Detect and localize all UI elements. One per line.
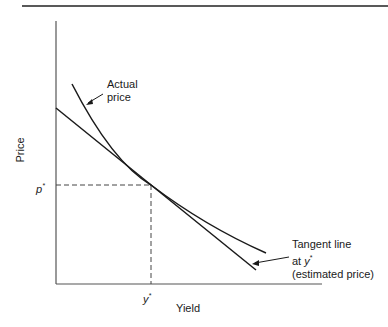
tangent-arrowhead [252,260,259,266]
actual-price-annotation: Actual price [107,78,138,104]
y-axis-label: Price [14,137,26,162]
y-star-label: y* [143,289,151,306]
actual-price-arrowhead [86,99,93,105]
p-star-label: p* [36,179,45,196]
tangent-arrow [255,257,289,263]
tangent-line [56,108,256,270]
x-axis-label: Yield [176,302,200,315]
actual-price-curve [72,84,266,253]
tangent-line-annotation: Tangent line at y* (estimated price) [292,238,374,281]
